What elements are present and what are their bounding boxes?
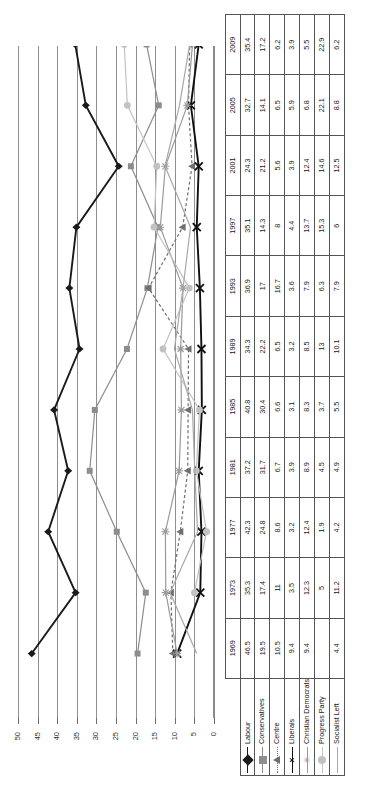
table-cell: 9.4 xyxy=(285,618,300,678)
series-centre xyxy=(145,46,196,657)
table-cell: 3.9 xyxy=(285,135,300,195)
table-cell: 8.3 xyxy=(300,377,315,437)
legend-row-centre: Centre xyxy=(270,678,285,775)
table-cell: 14.1 xyxy=(255,75,270,135)
table-cell: 6.2 xyxy=(329,15,344,75)
table-cell: 24.3 xyxy=(240,135,255,195)
table-row: Socialist Left4.411.24.24.95.510.17.9612… xyxy=(329,15,344,776)
data-point-marker xyxy=(135,651,141,657)
election-results-figure: 50454035302520151050 1969197319771981198… xyxy=(12,14,353,776)
data-point-marker xyxy=(114,529,120,535)
data-point-marker xyxy=(177,406,185,414)
table-row: Labour46.535.342.337.240.834.336.935.124… xyxy=(240,15,255,776)
table-cell: 13 xyxy=(315,316,330,376)
table-cell: 36.9 xyxy=(240,256,255,316)
table-cell: 10.5 xyxy=(270,618,285,678)
table-cell: 22.9 xyxy=(315,15,330,75)
table-cell: 34.3 xyxy=(240,316,255,376)
data-point-marker xyxy=(177,345,185,353)
table-cell: 37.2 xyxy=(240,437,255,497)
table-cell: 13.7 xyxy=(300,196,315,256)
data-point-marker xyxy=(144,46,150,47)
table-cell: 30.4 xyxy=(255,377,270,437)
data-point-marker xyxy=(151,224,158,231)
data-point-marker xyxy=(44,528,52,535)
y-axis-tick-mark xyxy=(57,718,58,724)
table-cell: 8 xyxy=(270,196,285,256)
table-cell: 22.2 xyxy=(255,316,270,376)
table-cell: 5.9 xyxy=(285,75,300,135)
rotated-chart-container: 50454035302520151050 1969197319771981198… xyxy=(0,0,365,794)
table-cell: 12.5 xyxy=(329,135,344,195)
data-point-marker xyxy=(203,528,210,535)
table-cell: 3.9 xyxy=(285,15,300,75)
table-cell: 14.6 xyxy=(315,135,330,195)
table-cell: 8.8 xyxy=(329,75,344,135)
table-cell: 16.7 xyxy=(270,256,285,316)
table-cell: 5.5 xyxy=(329,377,344,437)
data-point-marker xyxy=(87,468,93,474)
table-cell: 35.4 xyxy=(240,15,255,75)
y-axis-tick-label: 10 xyxy=(170,732,179,740)
table-cell: 14.3 xyxy=(255,196,270,256)
legend-marker-icon: ✳ xyxy=(302,747,313,773)
table-cell: 22.1 xyxy=(315,75,330,135)
table-row: Progress Party51.94.53.7136.315.314.622.… xyxy=(315,15,330,776)
table-cell: 3.2 xyxy=(285,497,300,557)
table-cell: 6.6 xyxy=(270,377,285,437)
y-axis-tick-mark xyxy=(136,718,137,724)
table-cell: 8.9 xyxy=(300,437,315,497)
data-point-marker xyxy=(156,102,162,108)
y-axis-tick-mark xyxy=(38,718,39,724)
legend-marker-icon xyxy=(272,747,283,773)
table-cell: 19.5 xyxy=(255,618,270,678)
data-point-marker xyxy=(188,162,195,170)
data-point-marker xyxy=(143,590,149,596)
series-lines xyxy=(18,46,214,718)
y-axis-tick-mark xyxy=(194,718,195,724)
y-axis-tick-mark xyxy=(77,718,78,724)
table-row: Centre10.5118.66.76.66.516.785.66.56.2 xyxy=(270,15,285,776)
legend-label: Liberals xyxy=(288,719,297,744)
legend-label: Progress Party xyxy=(317,696,326,744)
table-year-header: 1989 xyxy=(226,316,241,376)
table-cell: 3.2 xyxy=(285,316,300,376)
table-corner-cell xyxy=(226,678,241,775)
table-year-header: 1997 xyxy=(226,196,241,256)
table-cell: 7.9 xyxy=(329,256,344,316)
table-row: Conservatives19.517.424.831.730.422.2171… xyxy=(255,15,270,776)
legend-marker-icon xyxy=(257,747,268,773)
table-year-header: 2009 xyxy=(226,15,241,75)
table-cell: 3.9 xyxy=(285,437,300,497)
table-cell: 3.5 xyxy=(285,558,300,618)
y-axis-tick-label: 15 xyxy=(150,732,159,740)
legend-label: Conservatives xyxy=(258,698,267,744)
table-cell: 6.2 xyxy=(270,15,285,75)
table-cell: 6 xyxy=(329,196,344,256)
data-point-marker xyxy=(193,467,200,474)
y-axis-tick-mark xyxy=(175,718,176,724)
table-cell: 15.3 xyxy=(315,196,330,256)
table-cell: 46.5 xyxy=(240,618,255,678)
table-cell: 10.1 xyxy=(329,316,344,376)
data-point-marker xyxy=(124,102,131,109)
table-cell: 6.8 xyxy=(300,75,315,135)
data-point-marker xyxy=(82,102,90,109)
table-cell: 11.2 xyxy=(329,558,344,618)
legend-label: Christian Democrats xyxy=(302,679,311,744)
legend-row-conservatives: Conservatives xyxy=(255,678,270,775)
table-cell: 8.6 xyxy=(270,497,285,557)
table-cell: 4.5 xyxy=(315,437,330,497)
table-cell: 32.7 xyxy=(240,75,255,135)
data-point-marker xyxy=(161,528,169,536)
table-cell: 12.4 xyxy=(300,135,315,195)
y-axis-tick-mark xyxy=(18,718,19,724)
legend-marker-icon xyxy=(332,747,343,773)
table-year-header: 1993 xyxy=(226,256,241,316)
table-cell: 4.4 xyxy=(285,196,300,256)
data-point-marker xyxy=(128,163,134,169)
data-point-marker xyxy=(124,346,130,352)
data-point-marker xyxy=(179,223,186,231)
table-cell xyxy=(315,618,330,678)
table-cell: 40.8 xyxy=(240,377,255,437)
